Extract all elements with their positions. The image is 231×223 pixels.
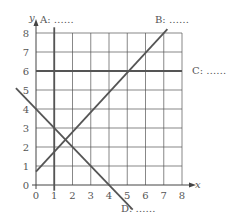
y-tick-label: 1	[23, 161, 29, 172]
grid-lines	[36, 33, 182, 185]
y-tick-label: 7	[23, 47, 29, 58]
plotted-lines	[16, 27, 182, 209]
y-tick-label: 6	[23, 66, 29, 77]
y-tick-label: 5	[23, 85, 29, 96]
y-tick-label: 0	[23, 180, 29, 191]
tick-labels: 012345678012345678	[23, 28, 186, 202]
line-b	[36, 29, 167, 172]
line-d-label: D: ……	[121, 203, 156, 214]
x-tick-label: 5	[124, 190, 130, 201]
y-tick-label: 8	[23, 28, 29, 39]
x-tick-label: 2	[69, 190, 75, 201]
y-tick-label: 2	[23, 142, 29, 153]
x-tick-label: 6	[142, 190, 148, 201]
x-axis-label: x	[195, 179, 201, 190]
y-tick-label: 3	[23, 123, 29, 134]
y-tick-label: 4	[23, 104, 29, 115]
coordinate-graph: 012345678012345678 y x A: …… B: …… C: ………	[0, 0, 231, 223]
line-a-label: A: ……	[39, 14, 74, 25]
line-c-label: C: ……	[192, 65, 226, 76]
x-tick-label: 3	[88, 190, 94, 201]
x-tick-label: 4	[106, 190, 112, 201]
y-axis-label: y	[28, 12, 35, 23]
x-tick-label: 7	[161, 190, 167, 201]
x-tick-label: 1	[51, 190, 57, 201]
x-tick-label: 0	[33, 190, 39, 201]
axes	[32, 19, 196, 189]
x-tick-label: 8	[179, 190, 185, 201]
line-b-label: B: ……	[155, 14, 189, 25]
